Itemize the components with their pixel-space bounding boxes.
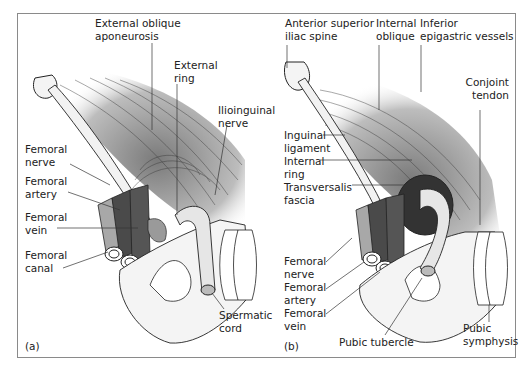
label-external-oblique-aponeurosis: External oblique aponeurosis xyxy=(95,17,181,43)
label-inferior-epigastric-vessels: Inferior epigastric vessels xyxy=(420,17,514,43)
label-femoral-artery-a: Femoral artery xyxy=(25,175,67,201)
label-transversalis-fascia: Transversalis fascia xyxy=(284,181,352,207)
label-internal-ring: Internal ring xyxy=(284,155,324,181)
label-inguinal-ligament: Inguinal ligament xyxy=(284,129,330,155)
label-femoral-artery-b: Femoral artery xyxy=(284,281,326,307)
label-femoral-vein-a: Femoral vein xyxy=(25,211,67,237)
label-external-ring: External ring xyxy=(174,59,218,85)
label-conjoint-tendon: Conjoint tendon xyxy=(455,76,509,102)
label-pubic-tubercle: Pubic tubercle xyxy=(339,336,414,349)
label-femoral-nerve-a: Femoral nerve xyxy=(25,143,67,169)
panel-label-a: (a) xyxy=(25,340,40,353)
label-femoral-nerve-b: Femoral nerve xyxy=(284,255,326,281)
label-pubic-symphysis: Pubic symphysis xyxy=(463,322,518,348)
femoral-vein-a xyxy=(130,185,150,262)
panel-label-b: (b) xyxy=(284,340,299,353)
label-ilioinguinal-nerve: Ilioinguinal nerve xyxy=(218,104,275,130)
label-femoral-vein-b: Femoral vein xyxy=(284,307,326,333)
label-femoral-canal: Femoral canal xyxy=(25,249,67,275)
label-spermatic-cord: Spermatic cord xyxy=(219,309,272,335)
label-internal-oblique: Internal oblique xyxy=(376,17,416,43)
label-anterior-superior-iliac-spine: Anterior superior iliac spine xyxy=(285,17,374,43)
